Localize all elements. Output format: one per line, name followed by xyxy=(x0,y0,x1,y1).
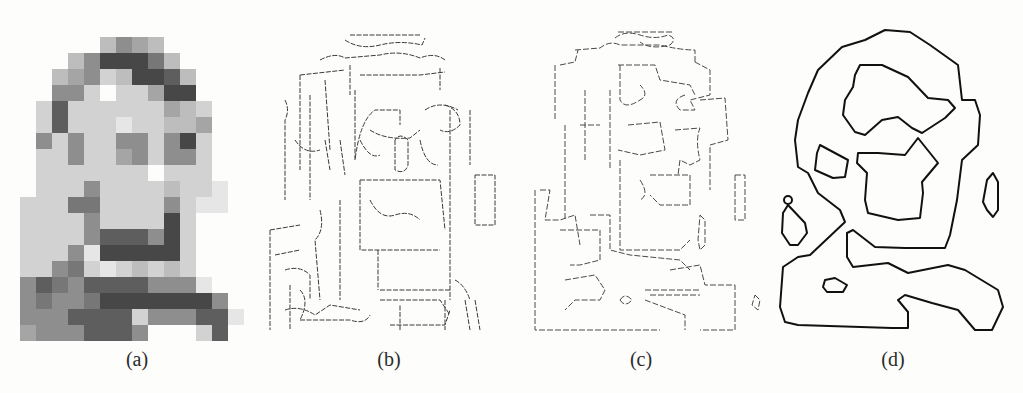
panel-b-label: (b) xyxy=(377,348,400,371)
body-loop-contour xyxy=(823,278,847,292)
teardrop-contour xyxy=(782,205,807,245)
small-circle-contour xyxy=(784,196,792,204)
contour-map-d xyxy=(0,0,1023,340)
outer-contour xyxy=(780,30,1003,330)
panel-a-label: (a) xyxy=(126,348,148,371)
panel-d-label: (d) xyxy=(881,348,904,371)
panel-c-label: (c) xyxy=(630,348,652,371)
hair-contour xyxy=(843,65,955,135)
panel-d-coarse-contours xyxy=(0,0,1023,340)
face-contour xyxy=(857,138,938,220)
figure: (a) (b) (c) (d) xyxy=(0,0,1023,393)
ear-contour xyxy=(983,173,998,217)
eye-contour xyxy=(815,145,848,178)
